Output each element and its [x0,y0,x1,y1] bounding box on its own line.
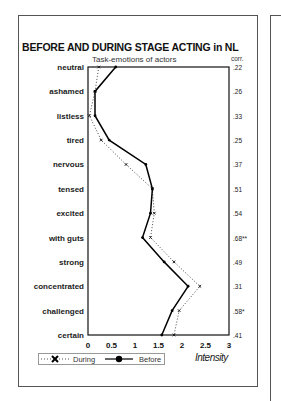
before-point-marker [187,285,190,288]
before-legend-icon [103,354,135,364]
during-point-marker [199,285,202,288]
before-point-marker [108,139,111,142]
before-point-marker [171,309,174,312]
legend-during-label: During [73,355,95,364]
during-point-marker [178,309,181,312]
during-point-marker [153,212,156,215]
before-point-marker [144,163,147,166]
before-point-marker [160,334,163,337]
before-point-marker [114,66,117,69]
before-point-marker [94,90,97,93]
plot-box [88,67,229,335]
during-point-marker [173,261,176,264]
during-legend-icon [39,354,71,364]
legend: During Before [38,353,165,365]
legend-before-label: Before [139,355,161,364]
before-point-marker [151,187,154,190]
before-point-marker [141,236,144,239]
before-point-marker [163,261,166,264]
series-before-line [95,67,188,335]
before-point-marker [94,114,97,117]
during-point-marker [125,163,128,166]
before-point-marker [149,212,152,215]
x-axis-label: Intensity [195,352,228,363]
